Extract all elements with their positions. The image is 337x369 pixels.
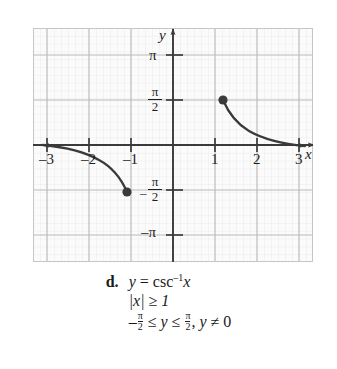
equation-exponent: –1 xyxy=(173,272,183,283)
equation-equals: = xyxy=(140,273,149,290)
equation-lhs: y xyxy=(129,273,136,290)
range-leading-minus: – xyxy=(129,313,137,330)
range-variable-2: y xyxy=(199,313,206,330)
fraction-denominator: 2 xyxy=(185,321,190,332)
range-variable: y xyxy=(161,313,168,330)
x-tick-label-neg2: –2 xyxy=(81,152,96,167)
caption-line-equation: d. y = csc–1x xyxy=(106,272,232,292)
fraction-denominator: 2 xyxy=(148,189,162,204)
caption-line-range: –π2 ≤ y ≤ π2, y ≠ 0 xyxy=(106,311,232,332)
equation-function: csc xyxy=(153,273,173,290)
fraction-numerator: π xyxy=(138,311,143,321)
x-tick-label-neg1: –1 xyxy=(123,152,138,167)
endpoint-dot-positive xyxy=(218,95,227,104)
y-axis-label: y xyxy=(159,28,166,43)
x-tick-label-3: 3 xyxy=(295,152,303,167)
caption-line-domain: |x| ≥ 1 xyxy=(106,292,232,311)
y-tick-label-pi-over-2: π 2 xyxy=(148,85,162,113)
figure-caption: d. y = csc–1x |x| ≥ 1 –π2 ≤ y ≤ π2, y ≠ … xyxy=(0,272,337,332)
caption-range-text: –π2 ≤ y ≤ π2, y ≠ 0 xyxy=(129,311,232,332)
graph-svg xyxy=(33,28,313,262)
fraction-denominator: 2 xyxy=(138,321,143,332)
y-tick-label-neg-pi-over-2-sign: – xyxy=(140,186,147,199)
range-fraction-right: π2 xyxy=(185,311,190,332)
fraction-denominator: 2 xyxy=(148,99,162,114)
range-zero: 0 xyxy=(223,313,231,330)
fraction-numerator: π xyxy=(148,85,162,99)
x-tick-label-1: 1 xyxy=(211,152,219,167)
y-tick-label-neg-pi-over-2: π 2 xyxy=(148,175,162,203)
caption-equation: y = csc–1x xyxy=(129,272,191,292)
x-tick-label-2: 2 xyxy=(253,152,261,167)
y-tick-label-pi: π xyxy=(149,48,157,63)
caption-domain-text: |x| ≥ 1 xyxy=(129,292,170,311)
math-figure: y x π π 2 – π 2 –π –3 –2 –1 1 2 3 d. y = xyxy=(0,0,337,369)
fraction-numerator: π xyxy=(148,175,162,189)
equation-argument: x xyxy=(183,273,190,290)
x-tick-label-neg3: –3 xyxy=(39,152,54,167)
fraction-numerator: π xyxy=(185,311,190,321)
endpoint-dot-negative xyxy=(122,187,131,196)
graph-plot-area: y x π π 2 – π 2 –π –3 –2 –1 1 2 3 xyxy=(33,28,313,262)
y-tick-label-neg-pi: –π xyxy=(141,225,156,240)
caption-item-label: d. xyxy=(106,273,129,292)
caption-inner: d. y = csc–1x |x| ≥ 1 –π2 ≤ y ≤ π2, y ≠ … xyxy=(106,272,232,332)
range-relation-1: ≤ xyxy=(148,313,157,330)
range-fraction-left: π2 xyxy=(138,311,143,332)
x-axis-label: x xyxy=(305,147,312,162)
